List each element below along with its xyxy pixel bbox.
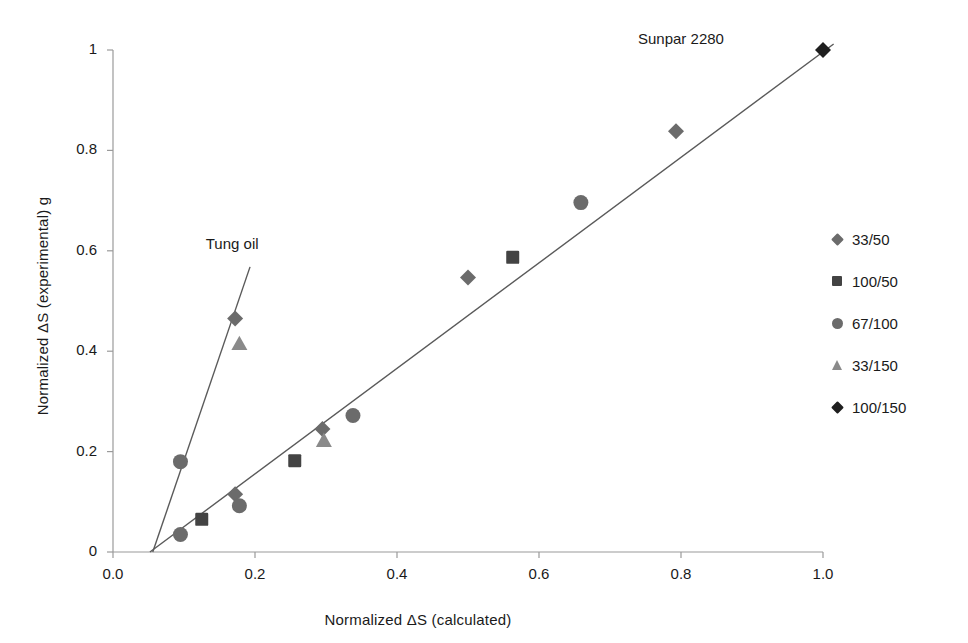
triangle-marker-icon bbox=[828, 356, 846, 374]
x-tick-label: 0.4 bbox=[367, 565, 427, 582]
legend-item-label: 33/150 bbox=[852, 357, 898, 374]
scatter-plot-canvas bbox=[0, 0, 968, 643]
data-point-diamond bbox=[227, 311, 243, 327]
x-tick-label: 0.0 bbox=[83, 565, 143, 582]
legend-item-33-50[interactable]: 33/50 bbox=[828, 218, 958, 260]
y-axis-title-wrapper: Normalized ΔS (experimental) g bbox=[32, 26, 52, 586]
y-axis-ticks bbox=[107, 50, 113, 552]
chart-legend: 33/50100/5067/10033/150100/150 bbox=[828, 218, 958, 428]
data-point-circle bbox=[173, 454, 188, 469]
square-marker-icon bbox=[828, 272, 846, 290]
x-axis-ticks bbox=[113, 552, 823, 558]
data-point-square bbox=[195, 513, 208, 526]
trend-line bbox=[150, 44, 834, 552]
plot-annotation: Tung oil bbox=[206, 235, 259, 252]
data-point-circle bbox=[173, 527, 188, 542]
x-tick-label: 1.0 bbox=[793, 565, 853, 582]
data-point-circle bbox=[232, 498, 247, 513]
data-point-square bbox=[288, 454, 301, 467]
data-point-markers bbox=[173, 42, 831, 542]
circle-marker-icon bbox=[828, 314, 846, 332]
x-tick-label: 0.8 bbox=[651, 565, 711, 582]
data-point-diamond bbox=[314, 421, 330, 437]
x-tick-label: 0.6 bbox=[509, 565, 569, 582]
legend-item-100-150[interactable]: 100/150 bbox=[828, 386, 958, 428]
diamond-marker-icon bbox=[828, 398, 846, 416]
legend-item-100-50[interactable]: 100/50 bbox=[828, 260, 958, 302]
y-axis-title: Normalized ΔS (experimental) g bbox=[34, 197, 51, 416]
data-point-square bbox=[506, 251, 519, 264]
chart-figure: 0.00.20.40.60.81.0 00.20.40.60.81 Normal… bbox=[0, 0, 968, 643]
data-point-circle bbox=[345, 408, 360, 423]
x-tick-label: 0.2 bbox=[225, 565, 285, 582]
legend-item-33-150[interactable]: 33/150 bbox=[828, 344, 958, 386]
data-point-triangle bbox=[231, 336, 247, 350]
plot-annotation: Sunpar 2280 bbox=[638, 30, 724, 47]
legend-item-label: 100/50 bbox=[852, 273, 898, 290]
legend-item-label: 33/50 bbox=[852, 231, 890, 248]
trend-lines bbox=[150, 44, 834, 552]
diamond-marker-icon bbox=[828, 230, 846, 248]
legend-item-label: 67/100 bbox=[852, 315, 898, 332]
axis-lines bbox=[113, 50, 823, 552]
x-axis-title: Normalized ΔS (calculated) bbox=[0, 611, 836, 628]
data-point-diamond bbox=[460, 269, 476, 285]
data-point-circle bbox=[573, 195, 588, 210]
data-point-diamond bbox=[668, 123, 684, 139]
data-point-triangle bbox=[316, 433, 332, 447]
legend-item-label: 100/150 bbox=[852, 399, 906, 416]
legend-item-67-100[interactable]: 67/100 bbox=[828, 302, 958, 344]
